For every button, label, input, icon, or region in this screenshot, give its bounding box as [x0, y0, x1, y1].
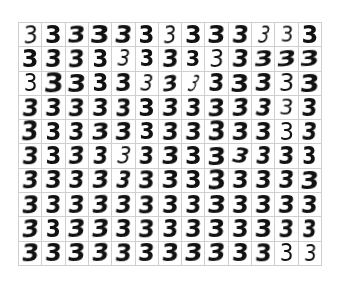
digit-cell: 3: [42, 72, 65, 96]
handwritten-digit: 3: [184, 217, 202, 241]
digit-cell: 3: [205, 193, 228, 217]
digit-cell: 3: [275, 72, 298, 96]
digit-cell: 3: [159, 120, 182, 144]
handwritten-digit: 3: [183, 242, 204, 266]
digit-cell: 3: [252, 193, 275, 217]
digit-cell: 3: [299, 217, 322, 241]
digit-cell: 3: [89, 96, 112, 120]
digit-cell: 3: [112, 120, 135, 144]
handwritten-digit: 3: [20, 217, 40, 241]
handwritten-digit: 3: [91, 144, 109, 168]
digit-cell: 3: [229, 144, 252, 168]
handwritten-digit: 3: [90, 120, 110, 144]
digit-cell: 3: [112, 144, 135, 168]
handwritten-digit: 3: [206, 193, 228, 217]
handwritten-digit: 3: [208, 72, 226, 96]
digit-cell: 3: [159, 217, 182, 241]
digit-cell: 3: [205, 72, 228, 96]
digit-cell: 3: [182, 23, 205, 47]
digit-cell: 3: [66, 217, 89, 241]
digit-cell: 3: [275, 120, 298, 144]
handwritten-digit: 3: [114, 217, 132, 241]
handwritten-digit: 3: [299, 169, 320, 193]
digit-cell: 3: [182, 120, 205, 144]
handwritten-digit: 3: [161, 217, 179, 241]
handwritten-digit: 3: [114, 242, 133, 266]
digit-cell: 3: [66, 72, 89, 96]
handwritten-digit: 3: [254, 217, 273, 241]
digit-cell: 3: [42, 242, 65, 266]
handwritten-digit: 3: [229, 145, 252, 167]
handwritten-digit: 3: [161, 96, 180, 120]
digit-cell: 3: [275, 217, 298, 241]
digit-cell: 3: [136, 144, 159, 168]
handwritten-digit: 3: [138, 193, 156, 217]
handwritten-digit: 3: [138, 242, 156, 266]
handwritten-digit: 3: [280, 242, 294, 266]
handwritten-digit: 3: [278, 144, 296, 168]
digit-cell: 3: [136, 193, 159, 217]
digit-cell: 3: [159, 47, 182, 71]
handwritten-digit: 3: [160, 144, 180, 168]
digit-cell: 3: [275, 144, 298, 168]
digit-cell: 3: [299, 72, 322, 96]
handwritten-digit: 3: [276, 47, 298, 71]
handwritten-digit: 3: [207, 23, 227, 47]
handwritten-digit: 3: [278, 96, 295, 118]
handwritten-digit: 3: [301, 96, 319, 120]
handwritten-digit: 3: [207, 120, 227, 144]
digit-cell: 3: [19, 144, 42, 168]
handwritten-digit: 3: [231, 193, 249, 217]
digit-cell: 3: [136, 217, 159, 241]
handwritten-digit: 3: [301, 120, 319, 144]
digit-cell: 3: [229, 96, 252, 120]
digit-cell: 3: [66, 169, 89, 193]
digit-cell: 3: [299, 169, 322, 193]
handwritten-digit: 3: [303, 144, 317, 168]
digit-cell: 3: [252, 144, 275, 168]
handwritten-digit: 3: [161, 72, 178, 96]
handwritten-digit: 3: [161, 47, 179, 71]
digit-cell: 3: [66, 144, 89, 168]
digit-cell: 3: [42, 23, 65, 47]
digit-cell: 3: [205, 169, 228, 193]
handwritten-digit: 3: [20, 242, 40, 266]
digit-cell: 3: [112, 72, 135, 96]
digit-grid: 3333333333333333333333333333333333333333…: [18, 22, 322, 266]
handwritten-digit: 3: [21, 169, 40, 193]
digit-cell: 3: [42, 96, 65, 120]
handwritten-digit: 3: [230, 120, 249, 144]
handwritten-digit: 3: [301, 23, 318, 47]
handwritten-digit: 3: [299, 72, 321, 96]
digit-cell: 3: [112, 47, 135, 71]
digit-cell: 3: [112, 96, 135, 120]
handwritten-digit: 3: [45, 193, 63, 217]
digit-cell: 3: [205, 144, 228, 168]
handwritten-digit: 3: [139, 120, 154, 143]
handwritten-digit: 3: [185, 23, 202, 47]
digit-cell: 3: [299, 120, 322, 144]
digit-cell: 3: [66, 193, 89, 217]
digit-cell: 3: [19, 47, 42, 71]
handwritten-digit: 3: [66, 72, 88, 96]
handwritten-digit: 3: [46, 217, 61, 241]
digit-cell: 3: [182, 242, 205, 266]
digit-cell: 3: [89, 120, 112, 144]
digit-cell: 3: [299, 47, 322, 71]
digit-cell: 3: [182, 47, 205, 71]
digit-cell: 3: [42, 144, 65, 168]
handwritten-digit: 3: [67, 96, 86, 120]
handwritten-digit: 3: [67, 242, 87, 266]
handwritten-digit: 3: [161, 193, 179, 217]
digit-cell: 3: [252, 47, 275, 71]
handwritten-digit: 3: [92, 47, 108, 71]
digit-cell: 3: [229, 169, 252, 193]
digit-cell: 3: [182, 96, 205, 120]
digit-cell: 3: [229, 23, 252, 47]
handwritten-digit: 3: [299, 48, 320, 70]
digit-cell: 3: [252, 242, 275, 266]
handwritten-digit: 3: [114, 120, 133, 144]
digit-cell: 3: [275, 242, 298, 266]
digit-cell: 3: [66, 120, 89, 144]
handwritten-digit: 3: [207, 169, 227, 193]
